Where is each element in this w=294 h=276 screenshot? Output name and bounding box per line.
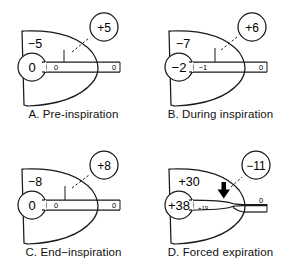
alveolar-pressure-label: 0 <box>28 198 35 213</box>
panel-d-forced-expiration: +30 +38 +19 0 −11 D. Forced expiration <box>147 138 294 276</box>
panel-a-caption: A. Pre-inspiration <box>0 108 147 120</box>
airway-mid-pressure-label: 0 <box>54 201 58 210</box>
pleural-pressure-label: +30 <box>178 175 199 189</box>
dashed-leader-line <box>72 38 89 52</box>
airway-tube-top-compressed <box>189 200 267 205</box>
panel-c-end-inspiration: −8 0 0 0 +8 C. End−inspiration <box>0 138 147 276</box>
alveolar-pressure-label: −2 <box>172 60 187 75</box>
pleural-pressure-label: −8 <box>28 175 42 189</box>
alveolar-pressure-label: 0 <box>28 60 35 75</box>
airway-tube-distal-taper <box>233 208 243 213</box>
panel-c-caption: C. End−inspiration <box>0 246 147 258</box>
mouth-pressure-label: 0 <box>259 63 263 72</box>
panel-a-pre-inspiration: −5 0 0 0 +5 A. Pre-inspiration <box>0 0 147 138</box>
bubble-pressure-label: +5 <box>97 21 111 35</box>
pleural-pressure-label: −7 <box>176 37 190 51</box>
bubble-pressure-label: +8 <box>97 159 111 173</box>
bubble-pressure-label: −11 <box>246 159 266 173</box>
mouth-pressure-label: 0 <box>112 201 116 210</box>
figure-root: −5 0 0 0 +5 A. Pre-inspiration −7 −2 −1 … <box>0 0 294 276</box>
airway-mid-pressure-label: −1 <box>199 63 208 72</box>
panel-d-caption: D. Forced expiration <box>147 246 294 258</box>
airway-mid-pressure-label: 0 <box>54 63 58 72</box>
panel-b-caption: B. During inspiration <box>147 108 294 120</box>
mouth-pressure-label: 0 <box>259 196 263 205</box>
bubble-pressure-label: +6 <box>245 21 259 35</box>
dashed-leader-line <box>231 177 242 187</box>
airway-mid-pressure-label: +19 <box>198 205 209 211</box>
mouth-pressure-label: 0 <box>112 63 116 72</box>
pleural-pressure-label: −5 <box>28 37 42 51</box>
down-arrow-icon <box>218 182 231 199</box>
panel-b-during-inspiration: −7 −2 −1 0 +6 B. During inspiration <box>147 0 294 138</box>
alveolar-pressure-label: +38 <box>168 198 190 213</box>
